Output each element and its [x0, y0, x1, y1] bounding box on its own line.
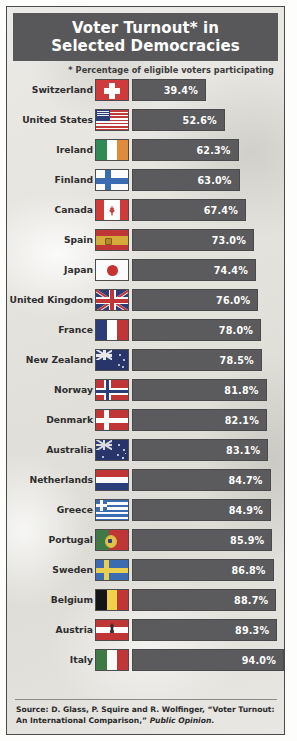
flag-australia-icon	[95, 439, 129, 461]
table-row: Sweden86.8%	[7, 559, 285, 589]
turnout-value-label: 81.8%	[224, 385, 265, 396]
country-label: Australia	[7, 439, 93, 461]
turnout-bar: 81.8%	[132, 379, 267, 401]
country-label: Austria	[7, 619, 93, 641]
country-label: United States	[7, 109, 93, 131]
turnout-bar: 83.1%	[132, 439, 268, 461]
table-row: Greece84.9%	[7, 499, 285, 529]
poster-title-line1: Voter Turnout* in	[72, 19, 219, 37]
turnout-bar: 85.9%	[132, 529, 272, 551]
table-row: United States52.6%	[7, 109, 285, 139]
table-row: Spain73.0%	[7, 229, 285, 259]
turnout-bar: 67.4%	[132, 199, 246, 221]
turnout-value-label: 78.0%	[219, 325, 260, 336]
turnout-bar: 82.1%	[132, 409, 267, 431]
turnout-value-label: 63.0%	[197, 175, 238, 186]
turnout-bar: 52.6%	[132, 109, 225, 131]
flag-austria-icon	[95, 619, 129, 641]
country-label: New Zealand	[7, 349, 93, 371]
table-row: Belgium88.7%	[7, 589, 285, 619]
table-row: France78.0%	[7, 319, 285, 349]
country-label: Sweden	[7, 559, 93, 581]
table-row: Austria89.3%	[7, 619, 285, 649]
turnout-value-label: 89.3%	[235, 625, 276, 636]
table-row: United Kingdom76.0%	[7, 289, 285, 319]
table-row: Switzerland39.4%	[7, 79, 285, 109]
turnout-bar: 84.9%	[132, 499, 271, 521]
turnout-value-label: 39.4%	[164, 85, 205, 96]
flag-spain-icon	[95, 229, 129, 251]
flag-netherlands-icon	[95, 469, 129, 491]
country-label: France	[7, 319, 93, 341]
flag-greece-icon	[95, 499, 129, 521]
table-row: Netherlands84.7%	[7, 469, 285, 499]
table-row: Finland63.0%	[7, 169, 285, 199]
flag-france-icon	[95, 319, 129, 341]
turnout-bar: 63.0%	[132, 169, 240, 191]
flag-portugal-icon	[95, 529, 129, 551]
country-label: Netherlands	[7, 469, 93, 491]
table-row: Denmark82.1%	[7, 409, 285, 439]
chart-subtitle-footnote: * Percentage of eligible voters particip…	[68, 65, 274, 75]
poster-title-line2: Selected Democracies	[51, 37, 240, 55]
turnout-bar: 78.0%	[132, 319, 261, 341]
turnout-value-label: 73.0%	[212, 235, 253, 246]
source-journal-title: Public Opinion	[150, 716, 212, 725]
flag-canada-icon	[95, 199, 129, 221]
table-row: Ireland62.3%	[7, 139, 285, 169]
turnout-bar: 73.0%	[132, 229, 254, 251]
country-label: Spain	[7, 229, 93, 251]
table-row: Australia83.1%	[7, 439, 285, 469]
table-row: Canada67.4%	[7, 199, 285, 229]
flag-new-zealand-icon	[95, 349, 129, 371]
flag-belgium-icon	[95, 589, 129, 611]
turnout-bar: 76.0%	[132, 289, 258, 311]
country-label: Ireland	[7, 139, 93, 161]
turnout-value-label: 88.7%	[234, 595, 275, 606]
table-row: New Zealand78.5%	[7, 349, 285, 379]
turnout-value-label: 94.0%	[242, 655, 283, 666]
country-label: United Kingdom	[7, 289, 93, 311]
country-label: Italy	[7, 649, 93, 671]
flag-ireland-icon	[95, 139, 129, 161]
flag-switzerland-icon	[95, 79, 129, 101]
country-label: Greece	[7, 499, 93, 521]
poster-header: Voter Turnout* in Selected Democracies	[13, 13, 278, 61]
turnout-bar: 89.3%	[132, 619, 277, 641]
country-label: Canada	[7, 199, 93, 221]
turnout-bar: 88.7%	[132, 589, 276, 611]
country-label: Portugal	[7, 529, 93, 551]
infographic-poster: Voter Turnout* in Selected Democracies *…	[6, 6, 285, 735]
turnout-value-label: 62.3%	[196, 145, 237, 156]
country-label: Norway	[7, 379, 93, 401]
country-label: Switzerland	[7, 79, 93, 101]
turnout-value-label: 84.7%	[228, 475, 269, 486]
country-label: Finland	[7, 169, 93, 191]
table-row: Japan74.4%	[7, 259, 285, 289]
source-citation: Source: D. Glass, P. Squire and R. Wolfi…	[16, 705, 278, 726]
turnout-bar: 84.7%	[132, 469, 271, 491]
country-label: Belgium	[7, 589, 93, 611]
turnout-value-label: 74.4%	[214, 265, 255, 276]
country-label: Denmark	[7, 409, 93, 431]
turnout-value-label: 82.1%	[225, 415, 266, 426]
flag-finland-icon	[95, 169, 129, 191]
flag-united-states-icon	[95, 109, 129, 131]
flag-sweden-icon	[95, 559, 129, 581]
turnout-value-label: 84.9%	[229, 505, 270, 516]
turnout-value-label: 85.9%	[230, 535, 271, 546]
table-row: Norway81.8%	[7, 379, 285, 409]
turnout-value-label: 67.4%	[204, 205, 245, 216]
flag-japan-icon	[95, 259, 129, 281]
turnout-value-label: 76.0%	[216, 295, 257, 306]
turnout-value-label: 83.1%	[226, 445, 267, 456]
turnout-bar: 78.5%	[132, 349, 262, 371]
source-divider	[15, 699, 277, 700]
table-row: Italy94.0%	[7, 649, 285, 679]
turnout-bar: 39.4%	[132, 79, 206, 101]
turnout-bar: 94.0%	[132, 649, 284, 671]
flag-italy-icon	[95, 649, 129, 671]
turnout-value-label: 78.5%	[220, 355, 261, 366]
turnout-value-label: 52.6%	[183, 115, 224, 126]
turnout-bar: 62.3%	[132, 139, 239, 161]
